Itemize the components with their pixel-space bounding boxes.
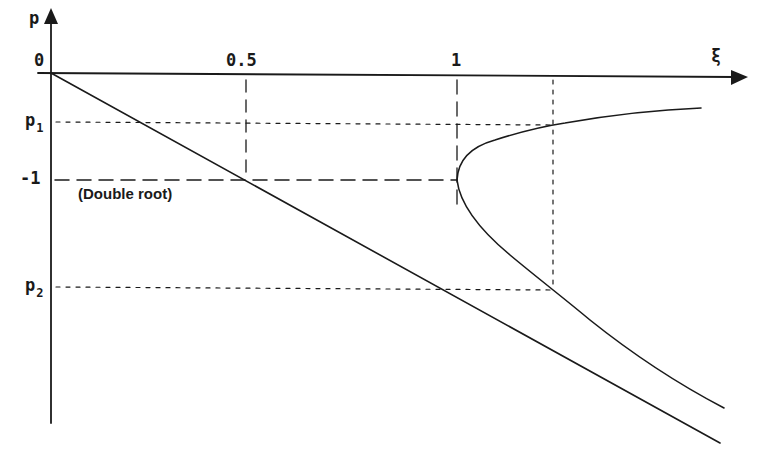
x-tick-0: 0: [34, 52, 44, 69]
upper-root-branch: [457, 108, 701, 180]
line-p-equals-minus-2xi: [51, 73, 720, 443]
lower-root-branch: [457, 180, 724, 408]
y-axis-arrow-icon: [44, 8, 58, 24]
y-tick-minus-1: -1: [20, 170, 40, 187]
y-tick-p1: p1: [25, 112, 43, 129]
double-root-annotation: (Double root): [78, 186, 172, 201]
x-tick-0.5: 0.5: [226, 52, 257, 69]
x-axis-label: ξ: [711, 48, 721, 65]
y-tick-p2-subscript: 2: [36, 286, 43, 300]
x-tick-1: 1: [451, 52, 461, 69]
guide-p1: [56, 122, 553, 125]
y-axis-label: p: [29, 10, 39, 27]
y-tick-p2-letter: p: [25, 275, 35, 295]
y-tick-p1-letter: p: [25, 110, 35, 130]
x-axis: [38, 73, 735, 77]
y-tick-p2: p2: [25, 277, 43, 294]
root-locus-diagram: p ξ 0 0.5 1 p1 -1 p2 (Double root): [0, 0, 767, 454]
y-tick-p1-subscript: 1: [36, 121, 43, 135]
x-axis-arrow-icon: [731, 70, 748, 85]
diagram-canvas: [0, 0, 767, 454]
guide-p2: [56, 287, 553, 290]
